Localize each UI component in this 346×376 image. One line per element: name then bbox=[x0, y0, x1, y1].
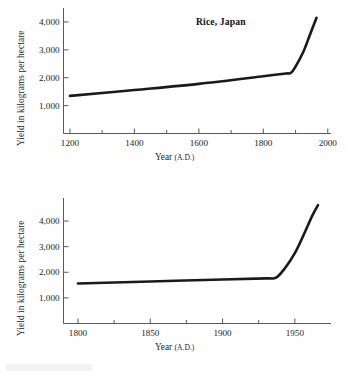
y-tick-label: 3,000 bbox=[39, 242, 59, 252]
x-axis-label-main: Year bbox=[155, 342, 172, 352]
y-tick-label: 2,000 bbox=[39, 73, 59, 83]
x-tick-label: 1200 bbox=[61, 138, 79, 148]
x-tick-label: 1900 bbox=[213, 328, 231, 338]
y-axis-label: Yield in kilograms per hectare bbox=[16, 30, 26, 146]
scan-artifact bbox=[6, 364, 92, 371]
y-tick-label: 4,000 bbox=[39, 17, 59, 27]
x-axis-label: Year (A.D.) bbox=[155, 342, 194, 352]
x-tick-label: 1600 bbox=[190, 138, 208, 148]
y-tick-label: 1,000 bbox=[39, 101, 59, 111]
y-tick-label: 2,000 bbox=[39, 267, 59, 277]
chart-corn-usa: Yield in kilograms per hectare Year (A.D… bbox=[0, 188, 346, 376]
x-tick-label: 1850 bbox=[141, 328, 159, 338]
chart-title: Rice, Japan bbox=[196, 16, 246, 27]
chart-rice-japan: Yield in kilograms per hectare Year (A.D… bbox=[0, 0, 346, 188]
y-tick-label: 4,000 bbox=[39, 216, 59, 226]
x-axis-label-paren: (A.D.) bbox=[174, 343, 194, 352]
y-tick-label: 1,000 bbox=[39, 293, 59, 303]
x-tick-label: 2000 bbox=[319, 138, 337, 148]
x-axis-label: Year (A.D.) bbox=[155, 152, 194, 162]
x-tick-label: 1800 bbox=[69, 328, 87, 338]
y-tick-label: 3,000 bbox=[39, 45, 59, 55]
x-tick-label: 1950 bbox=[286, 328, 304, 338]
x-axis-label-paren: (A.D.) bbox=[174, 153, 194, 162]
x-tick-label: 1800 bbox=[254, 138, 272, 148]
y-axis-label: Yield in kilograms per hectare bbox=[16, 220, 26, 336]
x-tick-label: 1400 bbox=[125, 138, 143, 148]
x-axis-label-main: Year bbox=[155, 152, 172, 162]
